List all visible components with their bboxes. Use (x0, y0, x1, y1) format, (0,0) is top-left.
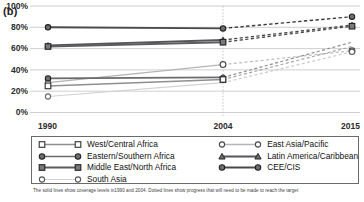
chart-legend: West/Central Africa Eastern/Southern Afr… (31, 136, 359, 184)
legend-item-middle-east-north-africa[interactable]: Middle East/North Africa (37, 162, 215, 173)
legend-label: West/Central Africa (87, 139, 158, 150)
legend-label: Middle East/North Africa (87, 162, 176, 173)
legend-item-latin-america-caribbean[interactable]: Latin America/Caribbean (217, 151, 358, 162)
x-tick-2004: 2004 (214, 121, 233, 131)
y-tick-0: 0% (0, 107, 28, 117)
series-eastern-southern-africa (45, 42, 352, 81)
series-cee-cis (45, 14, 354, 31)
chart-svg (30, 2, 360, 118)
filled-triangle-line-icon (217, 151, 263, 162)
legend-label: Latin America/Caribbean (267, 151, 358, 162)
legend-label: South Asia (87, 174, 127, 185)
y-tick-40: 40% (0, 65, 28, 75)
y-tick-20: 20% (0, 86, 28, 96)
legend-item-east-asia-pacific[interactable]: East Asia/Pacific (217, 139, 358, 150)
open-circle-line-icon (217, 139, 263, 150)
legend-column-right: East Asia/Pacific Latin America/Caribbea… (215, 139, 358, 183)
legend-column-left: West/Central Africa Eastern/Southern Afr… (32, 139, 215, 183)
open-square-line-icon (37, 139, 83, 150)
legend-label: East Asia/Pacific (267, 139, 328, 150)
legend-item-cee-cis[interactable]: CEE/CIS (217, 162, 358, 173)
x-tick-1990: 1990 (38, 121, 57, 131)
x-tick-2015: 2015 (341, 121, 360, 131)
chart-footnote: The solid lines show coverage levels in1… (33, 188, 361, 193)
legend-label: CEE/CIS (267, 162, 300, 173)
filled-square-line-icon (37, 162, 83, 173)
plot-area: 100% 80% 60% 40% 20% 0% 1990 2004 2015 (30, 2, 360, 118)
legend-item-south-asia[interactable]: South Asia (37, 174, 215, 185)
filled-circle-line-icon (37, 151, 83, 162)
gridlines (30, 6, 360, 113)
legend-label: Eastern/Southern Africa (87, 151, 175, 162)
y-tick-100: 100% (0, 1, 28, 11)
legend-item-eastern-southern-africa[interactable]: Eastern/Southern Africa (37, 151, 215, 162)
chart-figure: (b) 100% 80% 60% 40% 20% 0% 1990 2004 20… (0, 0, 364, 202)
y-tick-60: 60% (0, 43, 28, 53)
open-circle-light-line-icon (37, 174, 83, 185)
legend-item-west-central-africa[interactable]: West/Central Africa (37, 139, 215, 150)
y-tick-80: 80% (0, 22, 28, 32)
filled-circle-dark-line-icon (217, 162, 263, 173)
